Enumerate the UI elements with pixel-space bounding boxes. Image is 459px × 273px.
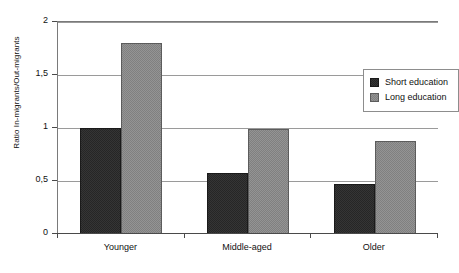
y-tick-label-1,5: 1,5 [28, 69, 48, 78]
legend-label-short-education: Short education [385, 78, 448, 87]
bar-younger-short-education [80, 128, 121, 234]
long-education-swatch [370, 93, 379, 102]
legend-entry-long-education: Long education [370, 90, 452, 105]
plot-area: Short education Long education [57, 21, 438, 234]
x-tick-mark-1 [184, 233, 185, 238]
x-tick-mark-0 [57, 233, 58, 238]
bar-chart: Ratio In-migrants/Out-migrants 00,511,52… [0, 0, 459, 273]
bar-older-long-education [375, 141, 416, 234]
legend-label-long-education: Long education [385, 93, 447, 102]
bar-older-short-education [334, 184, 375, 234]
short-education-swatch [370, 78, 379, 87]
x-tick-mark-3 [437, 233, 438, 238]
y-axis-title: Ratio In-migrants/Out-migrants [12, 13, 21, 173]
x-category-label-older: Older [310, 243, 437, 252]
x-tick-mark-2 [310, 233, 311, 238]
x-axis-baseline [57, 233, 438, 234]
bar-younger-long-education [121, 43, 162, 234]
y-tick-label-1: 1 [28, 122, 48, 131]
x-category-label-middle-aged: Middle-aged [184, 243, 311, 252]
chart-legend: Short education Long education [363, 69, 459, 112]
y-tick-label-0,5: 0,5 [28, 175, 48, 184]
y-tick-label-2: 2 [28, 16, 48, 25]
legend-entry-short-education: Short education [370, 75, 452, 90]
gridline-2 [58, 22, 438, 23]
x-category-label-younger: Younger [57, 243, 184, 252]
bar-middle-aged-long-education [248, 129, 289, 234]
bar-middle-aged-short-education [207, 173, 248, 234]
y-tick-label-0: 0 [28, 228, 48, 237]
